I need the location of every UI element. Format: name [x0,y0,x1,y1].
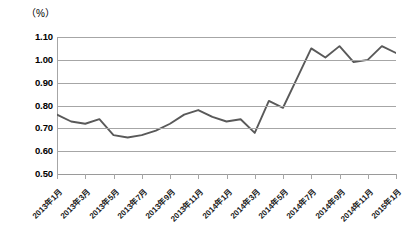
x-axis-tick-labels: 2013年1月2013年3月2013年5月2013年7月2013年9月2013年… [0,0,406,247]
line-chart: （%） 1.101.000.900.800.700.600.50 2013年1月… [0,0,406,247]
